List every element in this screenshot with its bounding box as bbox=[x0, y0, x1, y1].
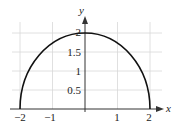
y-tick-label: 2 bbox=[76, 26, 82, 38]
y-tick-label: 0.5 bbox=[67, 84, 81, 96]
y-arrow-icon bbox=[82, 16, 88, 24]
y-tick-label: 1 bbox=[76, 65, 82, 77]
x-tick-label: 2 bbox=[146, 111, 152, 123]
y-tick-labels: 0.5 1 1.5 2 bbox=[67, 26, 81, 96]
x-axis bbox=[10, 106, 164, 112]
x-tick-label: −1 bbox=[44, 111, 56, 123]
grid bbox=[12, 22, 162, 109]
y-axis-label: y bbox=[78, 4, 84, 16]
x-tick-label: 1 bbox=[114, 111, 120, 123]
x-tick-labels: −2 −1 1 2 bbox=[14, 111, 152, 123]
y-axis bbox=[82, 16, 88, 112]
x-tick-label: −2 bbox=[14, 111, 26, 123]
x-axis-label: x bbox=[165, 102, 171, 114]
x-arrow-icon bbox=[156, 106, 164, 112]
y-tick-label: 1.5 bbox=[67, 46, 81, 58]
chart: x y −2 −1 1 2 0.5 1 1.5 2 bbox=[0, 0, 172, 124]
